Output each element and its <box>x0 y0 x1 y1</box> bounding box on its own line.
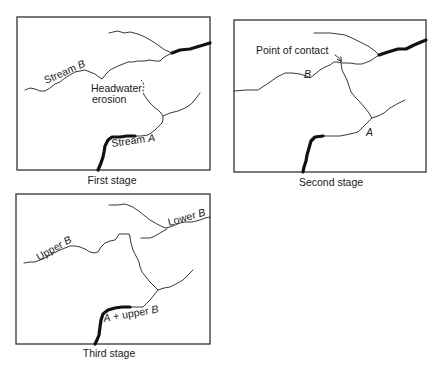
panel-second-stage: Point of contact B A Second stage <box>234 20 426 188</box>
label-a: A <box>365 126 373 138</box>
caption-first-stage: First stage <box>87 174 136 186</box>
panel-frame <box>234 20 426 172</box>
label-point-of-contact: Point of contact <box>256 44 328 56</box>
label-lower-b: Lower B <box>166 206 206 228</box>
label-erosion: erosion <box>92 93 127 105</box>
panel-first-stage: Stream B Headwater erosion Stream A Firs… <box>17 17 210 186</box>
caption-second-stage: Second stage <box>299 176 363 188</box>
stream-a-branch <box>158 270 193 290</box>
lower-b-tributary <box>141 229 167 238</box>
stream-a-upper-b <box>130 237 158 307</box>
stream-a-branch <box>372 100 405 118</box>
panel-third-stage: Upper B Lower B A + upper B Third stage <box>16 194 210 359</box>
contact-arrow-icon <box>335 55 341 61</box>
label-b: B <box>304 68 311 80</box>
upper-tributary <box>109 31 172 53</box>
main-river-trunk <box>379 40 426 55</box>
stream-a <box>323 63 372 136</box>
stream-capture-diagram: Stream B Headwater erosion Stream A Firs… <box>0 0 443 369</box>
stream-a <box>135 95 163 136</box>
caption-third-stage: Third stage <box>83 347 136 359</box>
main-river-trunk <box>172 43 210 53</box>
label-upper-b: Upper B <box>34 233 73 263</box>
stream-a-trunk <box>303 136 323 172</box>
label-stream-a: Stream A <box>111 131 156 149</box>
stream-a-branch <box>163 93 200 116</box>
